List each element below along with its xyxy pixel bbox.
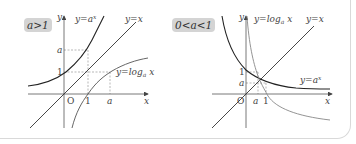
right-logarithm-label: y=loga x <box>253 14 292 25</box>
right-identity-label: y=x <box>305 14 324 24</box>
right-x-axis-label: x <box>325 96 330 106</box>
right-y-tick-1: 1 <box>239 67 245 77</box>
right-y-tick-a: a <box>239 78 244 88</box>
right-graph: y x O a 1 1 a y=loga x y=x y=ax <box>212 12 332 128</box>
right-identity-line <box>212 26 314 128</box>
right-exponential-label: y=ax <box>299 74 322 85</box>
left-exponential-label: y=ax <box>74 13 97 24</box>
left-origin-label: O <box>67 96 74 106</box>
graphs-canvas: y x O 1 a 1 a y=ax y=x y=loga x y x O a <box>0 0 356 144</box>
left-logarithm-label: y=loga x <box>115 67 154 78</box>
left-y-tick-1: 1 <box>57 67 63 77</box>
left-x-tick-1: 1 <box>85 96 91 106</box>
right-y-axis-label: y <box>238 12 245 22</box>
left-y-tick-a: a <box>57 45 62 55</box>
left-x-axis-label: x <box>144 96 149 106</box>
left-graph: y x O 1 a 1 a y=ax y=x y=loga x <box>28 12 154 128</box>
right-origin-label: O <box>237 96 244 106</box>
left-exponential-curve <box>28 16 104 86</box>
left-identity-label: y=x <box>124 14 143 24</box>
right-logarithm-curve <box>247 16 330 120</box>
left-y-axis-label: y <box>56 12 63 22</box>
right-x-tick-1: 1 <box>263 96 269 106</box>
right-x-tick-a: a <box>253 96 258 106</box>
left-x-tick-a: a <box>107 96 112 106</box>
